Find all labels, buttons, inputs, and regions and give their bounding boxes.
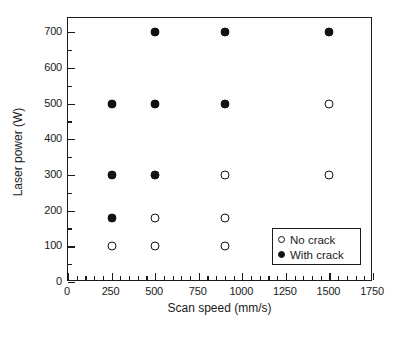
x-axis-minor-tick [129, 276, 130, 280]
x-axis-minor-tick [94, 276, 95, 280]
x-axis-minor-tick [138, 276, 139, 280]
data-point-with-crack [107, 99, 116, 108]
data-point-with-crack [107, 170, 116, 179]
y-axis-minor-tick [68, 264, 72, 265]
y-axis-minor-tick [68, 50, 72, 51]
x-axis-major-tick [242, 273, 243, 280]
x-axis-minor-tick [364, 276, 365, 280]
legend-box: No crackWith crack [272, 228, 361, 265]
x-axis-minor-tick [190, 276, 191, 280]
x-axis-minor-tick [225, 276, 226, 280]
y-axis-tick-label: 600 [44, 61, 62, 73]
x-axis-tick-label: 1750 [360, 285, 384, 297]
data-point-with-crack [151, 28, 160, 37]
data-point-no-crack [220, 170, 229, 179]
data-point-no-crack [220, 213, 229, 222]
x-axis-minor-tick [77, 276, 78, 280]
x-axis-major-tick [155, 273, 156, 280]
x-axis-minor-tick [234, 276, 235, 280]
x-axis-minor-tick [312, 276, 313, 280]
data-point-with-crack [325, 28, 334, 37]
legend-entry: No crack [278, 232, 356, 247]
x-axis-minor-tick [295, 276, 296, 280]
y-axis-minor-tick [68, 157, 72, 158]
x-axis-tick-label: 1250 [273, 285, 297, 297]
y-axis-major-tick [68, 139, 75, 140]
open-circle-icon [278, 236, 285, 243]
x-axis-tick-label: 1000 [229, 285, 253, 297]
legend-entry-label: No crack [290, 234, 335, 246]
y-axis-major-tick [68, 32, 75, 33]
data-point-no-crack [325, 170, 334, 179]
x-axis-tick-label: 750 [189, 285, 207, 297]
x-axis-minor-tick [103, 276, 104, 280]
x-axis-minor-tick [216, 276, 217, 280]
data-point-no-crack [220, 242, 229, 251]
data-point-with-crack [151, 170, 160, 179]
y-axis-tick-label-group: 0100200300400500600700 [0, 0, 62, 338]
data-point-with-crack [220, 28, 229, 37]
x-axis-minor-tick [181, 276, 182, 280]
x-axis-major-tick [68, 273, 69, 280]
x-axis-minor-tick [347, 276, 348, 280]
x-axis-minor-tick [338, 276, 339, 280]
y-axis-tick-label: 200 [44, 204, 62, 216]
x-axis-major-tick [329, 273, 330, 280]
y-axis-minor-tick [68, 228, 72, 229]
x-axis-minor-tick [173, 276, 174, 280]
y-axis-minor-tick [68, 193, 72, 194]
x-axis-minor-tick [85, 276, 86, 280]
x-axis-major-tick [112, 273, 113, 280]
y-axis-major-tick [68, 211, 75, 212]
y-axis-major-tick [68, 246, 75, 247]
x-axis-tick-label: 0 [64, 285, 70, 297]
x-axis-minor-tick [164, 276, 165, 280]
y-axis-major-tick [68, 68, 75, 69]
y-axis-tick-label: 100 [44, 239, 62, 251]
x-axis-minor-tick [277, 276, 278, 280]
y-axis-tick-label: 300 [44, 168, 62, 180]
x-axis-minor-tick [207, 276, 208, 280]
y-axis-tick-label: 0 [56, 275, 62, 287]
x-axis-minor-tick [268, 276, 269, 280]
filled-circle-icon [278, 251, 285, 258]
data-point-no-crack [151, 213, 160, 222]
y-axis-tick-label: 400 [44, 132, 62, 144]
x-axis-minor-tick [251, 276, 252, 280]
x-axis-minor-tick [120, 276, 121, 280]
x-axis-minor-tick [146, 276, 147, 280]
y-axis-tick-label: 700 [44, 25, 62, 37]
x-axis-title: Scan speed (mm/s) [67, 301, 372, 315]
x-axis-tick-label: 1500 [317, 285, 341, 297]
data-point-no-crack [325, 99, 334, 108]
x-axis-tick-label: 250 [102, 285, 120, 297]
data-point-no-crack [107, 242, 116, 251]
legend-entry-label: With crack [290, 249, 344, 261]
y-axis-minor-tick [68, 86, 72, 87]
x-axis-minor-tick [303, 276, 304, 280]
data-point-no-crack [151, 242, 160, 251]
x-axis-minor-tick [321, 276, 322, 280]
y-axis-tick-label: 500 [44, 97, 62, 109]
y-axis-major-tick [68, 282, 75, 283]
legend-entry: With crack [278, 247, 356, 262]
y-axis-minor-tick [68, 121, 72, 122]
x-axis-minor-tick [356, 276, 357, 280]
x-axis-minor-tick [260, 276, 261, 280]
data-point-with-crack [151, 99, 160, 108]
data-point-with-crack [220, 99, 229, 108]
x-axis-tick-label: 500 [145, 285, 163, 297]
x-axis-major-tick [199, 273, 200, 280]
x-axis-major-tick [286, 273, 287, 280]
x-axis-major-tick [373, 273, 374, 280]
y-axis-major-tick [68, 104, 75, 105]
y-axis-major-tick [68, 175, 75, 176]
data-point-with-crack [107, 213, 116, 222]
figure-container: Laser power (W) 0100200300400500600700 0… [0, 0, 401, 338]
